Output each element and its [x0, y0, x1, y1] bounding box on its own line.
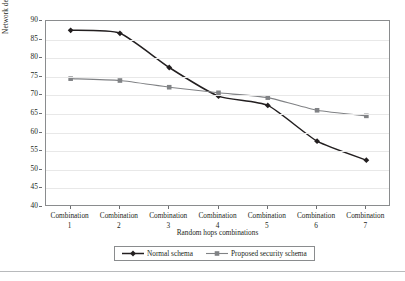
horizontal-gridline	[46, 77, 389, 78]
y-axis-tick-label: 50	[18, 165, 38, 173]
x-axis-tick-label-line: Combination	[91, 211, 147, 221]
y-axis-tick-label: 55	[18, 146, 38, 154]
x-axis-tick-label-line: Combination	[140, 211, 196, 221]
y-axis-tick-mark	[39, 206, 42, 207]
x-axis-tick-mark	[267, 206, 268, 209]
y-axis-tick-label: 90	[18, 16, 38, 24]
x-axis-tick-label-line: Combination	[337, 211, 393, 221]
legend-label: Normal schema	[147, 249, 193, 258]
x-axis-tick-label-line: Combination	[288, 211, 344, 221]
horizontal-gridline	[46, 40, 389, 41]
y-axis-tick-label: 60	[18, 128, 38, 136]
y-axis-title: Network delivery ratio%	[2, 0, 16, 62]
horizontal-gridline	[46, 170, 389, 171]
x-axis-tick-mark	[119, 206, 120, 209]
x-axis-tick-mark	[168, 206, 169, 209]
data-point-marker-square	[216, 90, 221, 95]
y-axis-tick-label: 70	[18, 90, 38, 98]
figure-container: Network delivery ratio% 9085807570656055…	[0, 0, 405, 281]
y-axis-tick-mark	[39, 57, 42, 58]
data-point-marker-square	[118, 78, 123, 83]
x-axis-tick-label-line: Combination	[239, 211, 295, 221]
horizontal-gridline	[46, 95, 389, 96]
y-axis-tick-labels: 9085807570656055504540	[18, 16, 42, 206]
y-axis-tick-mark	[39, 113, 42, 114]
figure-separator-rule	[0, 271, 405, 272]
y-axis-tick-mark	[39, 94, 42, 95]
legend-square-marker-icon	[206, 249, 228, 258]
y-axis-tick-mark	[39, 187, 42, 188]
x-axis-tick-mark	[70, 206, 71, 209]
legend-entry: Proposed security schema	[206, 249, 307, 258]
data-point-marker-square	[315, 108, 320, 113]
y-axis-tick-label: 75	[18, 72, 38, 80]
y-axis-tick-label: 80	[18, 53, 38, 61]
data-point-marker-diamond	[68, 27, 74, 33]
y-axis-tick-label: 85	[18, 35, 38, 43]
y-axis-tick-mark	[39, 169, 42, 170]
legend-label: Proposed security schema	[231, 249, 307, 258]
x-axis-tick-mark	[365, 206, 366, 209]
y-axis-tick-mark	[39, 132, 42, 133]
horizontal-gridline	[46, 133, 389, 134]
y-axis-tick-label: 65	[18, 109, 38, 117]
data-point-marker-diamond	[265, 103, 271, 109]
legend-entry: Normal schema	[122, 249, 193, 258]
y-axis-tick-mark	[39, 20, 42, 21]
y-axis-tick-mark	[39, 76, 42, 77]
plot-area	[45, 20, 390, 206]
data-point-marker-diamond	[117, 30, 123, 36]
y-axis-tick-mark	[39, 150, 42, 151]
data-point-marker-diamond	[363, 157, 369, 163]
x-axis-tick-label-line: Combination	[190, 211, 246, 221]
x-axis-title: Random hops combinations	[45, 228, 390, 237]
horizontal-gridline	[46, 114, 389, 115]
x-axis-tick-label-line: Combination	[42, 211, 98, 221]
y-axis-tick-mark	[39, 39, 42, 40]
x-axis-tick-mark	[316, 206, 317, 209]
horizontal-gridline	[46, 151, 389, 152]
chart-legend: Normal schemaProposed security schema	[114, 246, 315, 261]
x-axis-tick-mark	[218, 206, 219, 209]
legend-diamond-marker-icon	[122, 249, 144, 258]
horizontal-gridline	[46, 188, 389, 189]
y-axis-tick-label: 40	[18, 202, 38, 210]
y-axis-tick-label: 45	[18, 183, 38, 191]
data-point-marker-square	[167, 85, 172, 90]
horizontal-gridline	[46, 58, 389, 59]
